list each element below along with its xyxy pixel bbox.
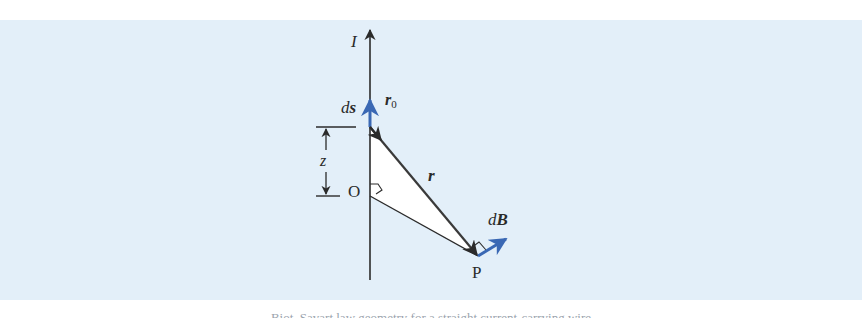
- z-label: z: [319, 152, 327, 169]
- r0-label: r0: [385, 91, 397, 110]
- figure-caption: Biot–Savart law geometry for a straight …: [0, 311, 862, 318]
- r0-label-subscript: 0: [391, 98, 397, 110]
- db-label: dB: [488, 210, 508, 229]
- r-label: r: [428, 166, 435, 185]
- point-p-label: P: [472, 263, 481, 282]
- ds-label: ds: [341, 98, 357, 117]
- ds-label-s: s: [349, 98, 357, 117]
- db-vector-arrow: [478, 239, 506, 256]
- current-label: I: [350, 32, 358, 51]
- origin-label: O: [348, 182, 360, 201]
- biot-savart-diagram: I ds r0 r z O P dB: [0, 0, 862, 318]
- db-label-b: B: [496, 210, 508, 229]
